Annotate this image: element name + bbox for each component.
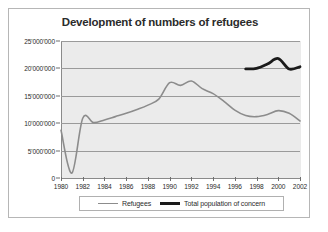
x-axis-tick-label: 1986 <box>119 183 133 190</box>
x-axis-tick-mark <box>213 177 214 181</box>
x-axis-tick-label: 1980 <box>54 183 68 190</box>
x-axis-tick-label: 1998 <box>249 183 263 190</box>
y-axis-tick-mark <box>56 41 60 42</box>
y-axis-tick-label: 20'000'000 <box>24 65 55 72</box>
x-axis-tick-label: 2000 <box>271 183 285 190</box>
legend-item-refugees: Refugees <box>98 200 151 207</box>
y-axis-tick-mark <box>56 150 60 151</box>
x-axis-tick-label: 2002 <box>293 183 307 190</box>
x-axis-tick-mark <box>148 177 149 181</box>
y-axis-tick-mark <box>56 95 60 96</box>
x-axis-labels: 1980198219841986198819901992199419961998… <box>61 181 300 195</box>
x-axis-tick-label: 1994 <box>206 183 220 190</box>
y-axis-tick-label: 25'000'000 <box>24 38 55 45</box>
series-line <box>61 81 300 173</box>
legend-label-refugees: Refugees <box>122 200 151 207</box>
x-axis-tick-label: 1988 <box>141 183 155 190</box>
series-line <box>246 58 300 69</box>
chart-legend: Refugees Total population of concern <box>79 196 284 211</box>
x-axis-tick-label: 1990 <box>162 183 176 190</box>
plot-area-wrapper <box>61 41 300 178</box>
x-axis-tick-mark <box>83 177 84 181</box>
x-axis-tick-mark <box>300 177 301 181</box>
x-axis-tick-mark <box>278 177 279 181</box>
legend-swatch-refugees-icon <box>98 203 118 205</box>
series-lines <box>61 41 300 178</box>
y-axis-tick-mark <box>56 123 60 124</box>
chart-title: Development of numbers of refugees <box>9 16 311 28</box>
y-axis-tick-label: 15'000'000 <box>24 92 55 99</box>
legend-label-total-population-of-concern: Total population of concern <box>184 200 265 207</box>
x-axis-tick-mark <box>61 177 62 181</box>
x-axis-tick-mark <box>235 177 236 181</box>
x-axis-tick-mark <box>104 177 105 181</box>
legend-item-total-population-of-concern: Total population of concern <box>160 200 265 207</box>
y-axis-tick-label: 5'000'000 <box>28 147 55 154</box>
x-axis-tick-label: 1996 <box>228 183 242 190</box>
x-axis-tick-label: 1982 <box>76 183 90 190</box>
x-axis-tick-label: 1992 <box>184 183 198 190</box>
x-axis-tick-mark <box>191 177 192 181</box>
x-axis-tick-mark <box>170 177 171 181</box>
chart-frame: Development of numbers of refugees 25'00… <box>8 8 310 218</box>
y-axis-labels: 25'000'00020'000'00015'000'00010'000'000… <box>9 41 59 178</box>
y-axis-tick-mark <box>56 68 60 69</box>
y-axis-tick-label: 0 <box>51 175 55 182</box>
legend-swatch-total-population-icon <box>160 202 180 205</box>
x-axis-tick-mark <box>126 177 127 181</box>
y-axis-tick-mark <box>56 178 60 179</box>
y-axis-tick-label: 10'000'000 <box>24 120 55 127</box>
x-axis-tick-mark <box>257 177 258 181</box>
x-axis-tick-label: 1984 <box>97 183 111 190</box>
